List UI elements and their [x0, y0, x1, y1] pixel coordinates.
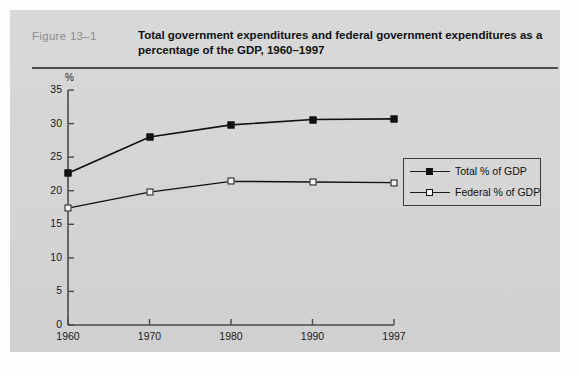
- y-tick-label: 15: [36, 217, 62, 229]
- y-tick-label: 30: [36, 117, 62, 129]
- legend-swatch-total: [410, 164, 450, 178]
- open-square-icon: [426, 189, 433, 196]
- figure-root: Figure 13–1 Total government expenditure…: [0, 0, 579, 376]
- data-point-marker: [65, 205, 72, 212]
- y-tick-label: 35: [36, 83, 62, 95]
- data-point-marker: [309, 178, 316, 185]
- legend-entry-total: Total % of GDP: [410, 164, 527, 178]
- filled-square-icon: [426, 168, 433, 175]
- x-tick-label: 1990: [290, 330, 336, 342]
- y-tick-label: 0: [36, 318, 62, 330]
- series-line-federal: [68, 181, 394, 208]
- chart-legend: Total % of GDP Federal % of GDP: [403, 158, 541, 206]
- legend-label-total: Total % of GDP: [455, 165, 527, 177]
- data-point-marker: [228, 121, 235, 128]
- x-axis-ticks: [68, 319, 394, 325]
- data-point-marker: [146, 189, 153, 196]
- data-point-marker: [391, 179, 398, 186]
- data-point-marker: [309, 116, 316, 123]
- legend-entry-federal: Federal % of GDP: [410, 185, 540, 199]
- y-axis-unit-label: %: [65, 72, 74, 83]
- y-tick-label: 5: [36, 284, 62, 296]
- legend-label-federal: Federal % of GDP: [455, 186, 540, 198]
- figure-panel: Figure 13–1 Total government expenditure…: [10, 10, 560, 352]
- x-tick-label: 1970: [127, 330, 173, 342]
- y-tick-label: 10: [36, 251, 62, 263]
- data-point-marker: [65, 170, 72, 177]
- x-tick-label: 1997: [371, 330, 417, 342]
- data-point-marker: [146, 134, 153, 141]
- x-tick-label: 1980: [208, 330, 254, 342]
- y-tick-label: 25: [36, 150, 62, 162]
- data-point-marker: [391, 115, 398, 122]
- y-tick-label: 20: [36, 184, 62, 196]
- x-tick-label: 1960: [45, 330, 91, 342]
- data-point-marker: [228, 178, 235, 185]
- legend-swatch-federal: [410, 185, 450, 199]
